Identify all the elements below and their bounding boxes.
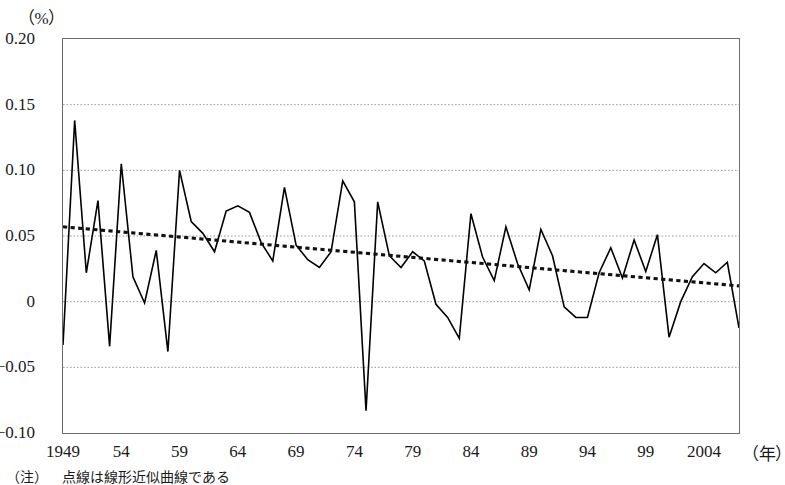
x-tick-label: 69 (288, 442, 305, 462)
x-tick-label: 74 (346, 442, 363, 462)
y-tick-label: −0.10 (0, 423, 35, 443)
y-tick-label: 0.10 (5, 160, 35, 180)
x-tick-label: 84 (462, 442, 479, 462)
x-tick-label: 59 (171, 442, 188, 462)
note-tag-label: （注） (6, 470, 48, 485)
y-tick-label: 0.05 (5, 226, 35, 246)
x-tick-label: 94 (579, 442, 596, 462)
y-axis-unit-label: （%） (18, 4, 65, 29)
x-tick-label: 2004 (687, 442, 721, 462)
x-tick-label: 79 (404, 442, 421, 462)
plot-area (62, 38, 740, 434)
x-tick-label: 54 (113, 442, 130, 462)
y-tick-label: 0.15 (5, 95, 35, 115)
chart-note: （注）点線は線形近似曲線である (6, 466, 230, 485)
y-tick-label: −0.05 (0, 357, 35, 377)
x-tick-label: 89 (521, 442, 538, 462)
x-tick-label: 64 (229, 442, 246, 462)
x-tick-label: 1949 (46, 442, 80, 462)
chart-svg (63, 39, 739, 433)
y-tick-label: 0.20 (5, 29, 35, 49)
x-tick-label: 99 (637, 442, 654, 462)
note-text: 点線は線形近似曲線である (62, 470, 230, 485)
y-tick-label: 0 (27, 292, 36, 312)
x-axis-unit-label: （年） (742, 440, 785, 465)
